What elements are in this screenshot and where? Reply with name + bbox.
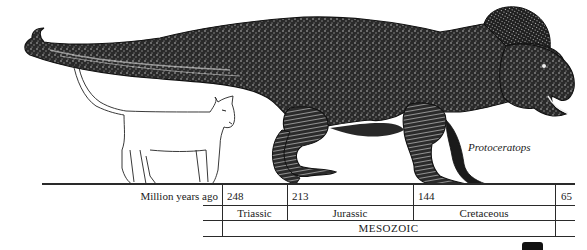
rule-ticks (203, 205, 575, 206)
cat-body (122, 96, 235, 184)
cat-legs (130, 150, 210, 184)
protoceratops-drawing (25, 7, 574, 184)
era-mesozoic: MESOZOIC (222, 222, 555, 234)
rule-periods (203, 220, 575, 221)
tick-213: 213 (292, 190, 309, 202)
divider-65 (555, 185, 556, 237)
period-triassic: Triassic (222, 207, 287, 219)
species-label: Protoceratops (468, 141, 531, 153)
ground-line (42, 183, 575, 185)
page-tab-marker (522, 242, 543, 250)
period-jurassic: Jurassic (287, 207, 413, 219)
rule-era (203, 236, 575, 237)
dinosaur-head (500, 44, 575, 116)
tick-65: 65 (561, 190, 572, 202)
tick-144: 144 (418, 190, 435, 202)
tick-248: 248 (227, 190, 244, 202)
time-axis-label: Million years ago (126, 190, 218, 202)
period-cretaceous: Cretaceous (413, 207, 555, 219)
